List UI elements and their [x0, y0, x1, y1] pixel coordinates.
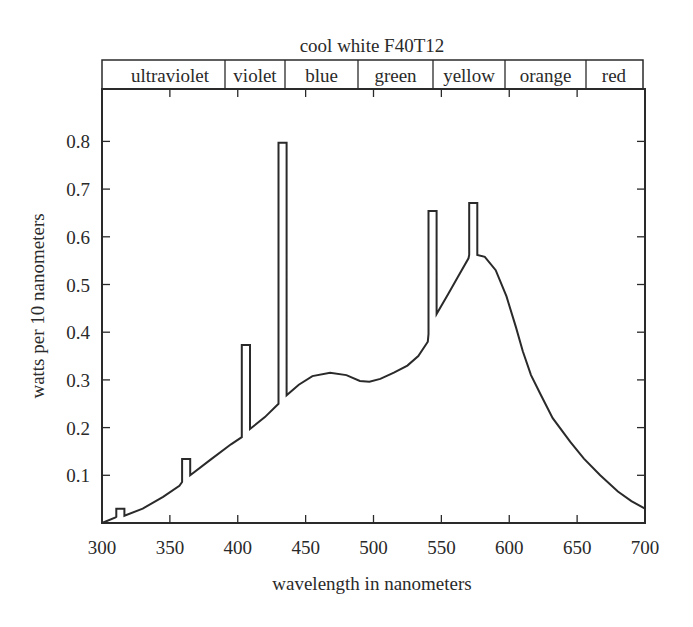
x-tick-label: 650 — [563, 537, 592, 558]
x-axis: 300350400450500550600650700 — [88, 89, 660, 558]
y-tick-label: 0.6 — [66, 227, 90, 248]
band-label-red: red — [602, 65, 627, 86]
chart-title: cool white F40T12 — [300, 35, 445, 56]
y-axis-label: watts per 10 nanometers — [27, 213, 48, 398]
y-tick-label: 0.2 — [66, 418, 90, 439]
plot-frame — [102, 89, 645, 523]
x-tick-label: 350 — [156, 537, 185, 558]
spectrum-chart: cool white F40T12 ultravioletvioletblueg… — [0, 0, 693, 627]
y-tick-label: 0.8 — [66, 131, 90, 152]
x-tick-label: 700 — [631, 537, 660, 558]
x-tick-label: 550 — [427, 537, 456, 558]
x-tick-label: 400 — [224, 537, 253, 558]
band-label-orange: orange — [520, 65, 572, 86]
band-label-yellow: yellow — [443, 65, 495, 86]
band-label-blue: blue — [305, 65, 338, 86]
y-tick-label: 0.4 — [66, 322, 90, 343]
x-tick-label: 300 — [88, 537, 117, 558]
y-tick-label: 0.3 — [66, 370, 90, 391]
x-tick-label: 500 — [359, 537, 388, 558]
x-tick-label: 600 — [495, 537, 524, 558]
y-axis: 0.10.20.30.40.50.60.70.8 — [66, 131, 645, 486]
x-tick-label: 450 — [291, 537, 320, 558]
plot-border — [102, 89, 645, 523]
x-axis-label: wavelength in nanometers — [272, 573, 471, 594]
spectrum-line — [102, 143, 645, 523]
y-tick-label: 0.5 — [66, 275, 90, 296]
band-label-violet: violet — [233, 65, 277, 86]
y-tick-label: 0.1 — [66, 465, 90, 486]
band-label-green: green — [374, 65, 417, 86]
y-tick-label: 0.7 — [66, 179, 90, 200]
band-label-ultraviolet: ultraviolet — [131, 65, 210, 86]
color-band-strip: ultravioletvioletbluegreenyelloworangere… — [102, 60, 643, 89]
